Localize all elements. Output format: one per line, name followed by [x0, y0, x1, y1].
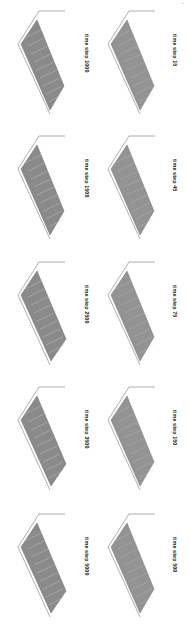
panel-caption: time step 15	[168, 34, 178, 94]
panel-caption: time step 5000	[80, 537, 90, 597]
surface-plot	[14, 509, 70, 619]
surface-plot	[14, 257, 70, 367]
surface-plot	[14, 131, 70, 241]
surface-plot	[14, 382, 70, 492]
panel-caption: time step 1000	[80, 34, 90, 94]
surface-plot	[104, 509, 160, 619]
panel-time-step-75: time step 75	[94, 251, 184, 369]
surface-plot	[104, 131, 160, 241]
panel-time-step-1000: time step 1000	[4, 0, 94, 118]
panel-time-step-1500: time step 1500	[4, 125, 94, 243]
surface-plot	[104, 257, 160, 367]
surface-3d-icon	[104, 131, 160, 241]
surface-3d-icon	[14, 382, 70, 492]
panel-caption: time step 45	[168, 159, 178, 219]
panel-time-step-3500: time step 3500	[4, 376, 94, 494]
surface-3d-icon	[104, 509, 160, 619]
surface-3d-icon	[14, 131, 70, 241]
panel-time-step-45: time step 45	[94, 125, 184, 243]
panel-caption: time step 1500	[80, 159, 90, 219]
surface-3d-icon	[104, 382, 160, 492]
surface-plot	[104, 6, 160, 116]
panel-caption: time step 500	[168, 537, 178, 597]
panel-caption: time step 3500	[80, 410, 90, 470]
surface-plot	[104, 382, 160, 492]
surface-3d-icon	[104, 6, 160, 116]
surface-plot	[14, 6, 70, 116]
surface-3d-icon	[14, 509, 70, 619]
panel-caption: time step 2500	[80, 285, 90, 345]
panel-time-step-150: time step 150	[94, 376, 184, 494]
surface-3d-icon	[14, 6, 70, 116]
panel-time-step-500: time step 500	[94, 503, 184, 621]
panel-time-step-15: time step 15	[94, 0, 184, 118]
panel-time-step-2500: time step 2500	[4, 251, 94, 369]
panel-time-step-5000: time step 5000	[4, 503, 94, 621]
panel-caption: time step 150	[168, 410, 178, 470]
surface-3d-icon	[104, 257, 160, 367]
panel-caption: time step 75	[168, 285, 178, 345]
surface-3d-icon	[14, 257, 70, 367]
